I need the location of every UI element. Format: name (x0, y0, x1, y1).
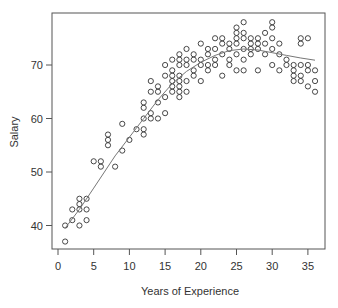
data-point (241, 30, 246, 35)
data-point (105, 132, 110, 137)
data-point (255, 36, 260, 41)
x-tick-label: 25 (230, 260, 242, 272)
data-point (291, 62, 296, 67)
data-point (234, 68, 239, 73)
data-point (248, 36, 253, 41)
data-point (234, 30, 239, 35)
data-point (184, 89, 189, 94)
data-point (212, 46, 217, 51)
data-point (234, 36, 239, 41)
x-tick-label: 0 (55, 260, 61, 272)
data-point (141, 105, 146, 110)
data-point (98, 159, 103, 164)
data-point (184, 57, 189, 62)
data-point (198, 78, 203, 83)
data-point (77, 196, 82, 201)
data-point (212, 36, 217, 41)
x-tick-label: 10 (123, 260, 135, 272)
data-point (298, 73, 303, 78)
data-point (141, 132, 146, 137)
data-point (177, 52, 182, 57)
data-point (212, 57, 217, 62)
data-point (312, 68, 317, 73)
data-point (298, 41, 303, 46)
data-point (234, 41, 239, 46)
data-point (191, 57, 196, 62)
data-point (91, 159, 96, 164)
data-point (305, 84, 310, 89)
data-point (205, 46, 210, 51)
data-point (120, 121, 125, 126)
plot-frame (52, 13, 325, 249)
data-point (270, 46, 275, 51)
data-point (270, 25, 275, 30)
data-point (177, 62, 182, 67)
data-point (305, 68, 310, 73)
data-point (155, 84, 160, 89)
x-tick-label: 5 (91, 260, 97, 272)
data-point (113, 164, 118, 169)
data-point (70, 207, 75, 212)
data-point (170, 68, 175, 73)
data-point (105, 143, 110, 148)
data-point (163, 73, 168, 78)
data-point (205, 52, 210, 57)
data-point (105, 137, 110, 142)
trend-curve (65, 49, 315, 228)
data-point (155, 116, 160, 121)
data-point (262, 52, 267, 57)
data-point (220, 36, 225, 41)
y-tick-label: 60 (31, 113, 43, 125)
data-point (163, 111, 168, 116)
data-point (262, 41, 267, 46)
data-point (98, 164, 103, 169)
data-point (184, 62, 189, 67)
data-point (291, 68, 296, 73)
data-point (234, 52, 239, 57)
data-point (155, 89, 160, 94)
data-point (270, 62, 275, 67)
data-point (170, 57, 175, 62)
x-axis: 05101520253035 (55, 249, 314, 272)
data-point (84, 207, 89, 212)
data-point (205, 62, 210, 67)
x-tick-label: 35 (302, 260, 314, 272)
data-point (255, 41, 260, 46)
data-point (291, 73, 296, 78)
data-point (177, 89, 182, 94)
data-point (184, 78, 189, 83)
y-axis: 40506070 (31, 59, 52, 232)
data-point (262, 30, 267, 35)
data-point (298, 36, 303, 41)
x-tick-label: 20 (195, 260, 207, 272)
data-point (148, 78, 153, 83)
data-point (241, 57, 246, 62)
data-point (312, 78, 317, 83)
y-tick-label: 40 (31, 220, 43, 232)
data-point (170, 73, 175, 78)
data-point (227, 62, 232, 67)
data-point (277, 41, 282, 46)
data-point (170, 89, 175, 94)
x-axis-title: Years of Experience (141, 285, 239, 297)
data-points (63, 20, 318, 245)
data-point (63, 239, 68, 244)
data-point (248, 41, 253, 46)
data-point (241, 68, 246, 73)
data-point (205, 68, 210, 73)
data-point (177, 57, 182, 62)
data-point (284, 62, 289, 67)
data-point (270, 36, 275, 41)
data-point (177, 84, 182, 89)
data-point (234, 25, 239, 30)
y-tick-label: 70 (31, 59, 43, 71)
data-point (298, 78, 303, 83)
data-point (184, 46, 189, 51)
data-point (241, 36, 246, 41)
data-point (191, 52, 196, 57)
data-point (220, 73, 225, 78)
x-tick-label: 30 (266, 260, 278, 272)
data-point (170, 78, 175, 83)
data-point (305, 36, 310, 41)
data-point (305, 62, 310, 67)
